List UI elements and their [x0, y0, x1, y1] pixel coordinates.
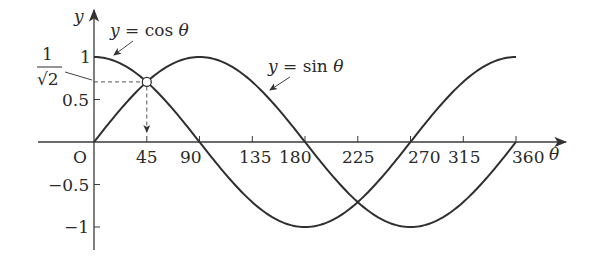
cos-label-pointer: [114, 41, 133, 55]
frac-label: 1 √2: [37, 44, 62, 89]
svg-text:1: 1: [80, 47, 91, 67]
sin-label-pointer: [270, 77, 290, 90]
sin-cos-chart: y θ O 45 90 135 180 225 270 315 360 1 0.…: [0, 0, 595, 259]
origin-label: O: [73, 147, 87, 167]
svg-text:360: 360: [512, 147, 544, 167]
svg-text:135: 135: [239, 147, 271, 167]
x-tick-labels: 45 90 135 180 225 270 315 360: [136, 147, 544, 167]
y-axis-label: y: [73, 6, 84, 26]
svg-text:−0.5: −0.5: [48, 175, 89, 195]
svg-text:315: 315: [448, 147, 480, 167]
x-ticks: [147, 136, 516, 142]
svg-text:45: 45: [136, 147, 158, 167]
svg-text:180: 180: [279, 147, 311, 167]
svg-text:√2: √2: [37, 69, 59, 89]
svg-text:270: 270: [408, 147, 440, 167]
svg-text:0.5: 0.5: [62, 90, 89, 110]
cos-equation-label: y = cos θ: [109, 20, 189, 40]
svg-text:1: 1: [42, 44, 53, 64]
svg-text:90: 90: [180, 147, 202, 167]
sin-equation-label: y = sin θ: [267, 56, 343, 76]
svg-text:225: 225: [342, 147, 374, 167]
frac-label-pointer: [65, 72, 92, 80]
intersection-marker: [142, 77, 151, 86]
x-axis-label: θ: [549, 144, 559, 164]
svg-text:−1: −1: [64, 217, 89, 237]
